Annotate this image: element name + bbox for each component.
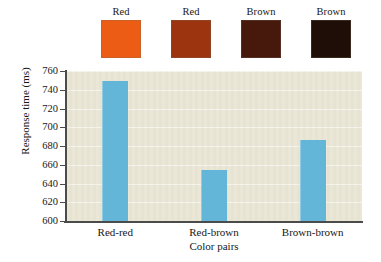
y-tick-label-700: 700: [32, 121, 58, 132]
y-axis-line: [65, 70, 67, 222]
swatch-label-1: Red: [100, 6, 142, 18]
swatch-chip-2: [171, 20, 211, 58]
y-tick-760: [60, 71, 65, 72]
plot-area: [66, 71, 362, 221]
figure-bar-chart-response-time: Red Red Brown Brown 60062064066068070072…: [0, 0, 381, 262]
x-tick-label-brown-brown: Brown-brown: [258, 226, 368, 238]
y-axis-title: Response time (ms): [19, 41, 31, 181]
swatch-label-2: Red: [170, 6, 212, 18]
x-tick-label-red-brown: Red-brown: [159, 226, 269, 238]
swatch-cell-3: Brown: [240, 6, 282, 58]
swatch-chip-4: [311, 20, 351, 58]
gridline-760: [66, 71, 362, 72]
y-tick-label-760: 760: [32, 65, 58, 76]
y-tick-label-620: 620: [32, 196, 58, 207]
y-tick-label-740: 740: [32, 84, 58, 95]
x-axis-line: [64, 221, 363, 223]
y-tick-label-660: 660: [32, 159, 58, 170]
y-axis-tick-labels: 600620640660680700720740760: [30, 0, 58, 262]
bar-brown-brown: [300, 140, 326, 221]
y-tick-600: [60, 221, 65, 222]
y-tick-680: [60, 146, 65, 147]
y-tick-640: [60, 184, 65, 185]
swatch-chip-3: [241, 20, 281, 58]
color-swatch-strip: Red Red Brown Brown: [100, 6, 352, 66]
y-tick-label-720: 720: [32, 103, 58, 114]
swatch-label-4: Brown: [310, 6, 352, 18]
x-axis-title: Color pairs: [66, 240, 362, 252]
y-tick-label-640: 640: [32, 178, 58, 189]
y-tick-660: [60, 165, 65, 166]
swatch-cell-4: Brown: [310, 6, 352, 58]
swatch-cell-1: Red: [100, 6, 142, 58]
y-tick-label-600: 600: [32, 215, 58, 226]
bar-red-brown: [201, 170, 227, 221]
y-tick-700: [60, 127, 65, 128]
swatch-chip-1: [101, 20, 141, 58]
y-tick-720: [60, 109, 65, 110]
swatch-label-3: Brown: [240, 6, 282, 18]
y-tick-label-680: 680: [32, 140, 58, 151]
swatch-cell-2: Red: [170, 6, 212, 58]
bar-red-red: [102, 81, 128, 221]
x-tick-label-red-red: Red-red: [60, 226, 170, 238]
y-tick-620: [60, 202, 65, 203]
y-tick-740: [60, 90, 65, 91]
